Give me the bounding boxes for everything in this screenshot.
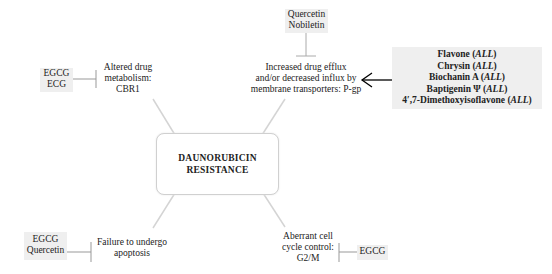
flavonoid-name: 4′,7-Dimethoxyisoflavone <box>402 95 505 105</box>
mechanism-text: cycle control: <box>276 242 340 253</box>
inhibitor-label: ECG <box>40 79 73 90</box>
mechanism-efflux: Increased drug efflux and/or decreased i… <box>236 62 376 95</box>
mechanism-text: Altered drug <box>100 62 156 73</box>
flavonoid-item: Chrysin (ALL) <box>392 61 542 73</box>
flavonoid-note: ALL <box>476 61 494 71</box>
flavonoid-name: Chrysin <box>437 61 470 71</box>
mechanism-apoptosis: Failure to undergo apoptosis <box>92 237 172 259</box>
flavonoid-item: Biochanin A (ALL) <box>392 72 542 84</box>
center-node: DAUNORUBICIN RESISTANCE <box>156 133 279 195</box>
mechanism-text: Aberrant cell <box>276 231 340 242</box>
mechanism-text: and/or decreased influx by <box>236 73 376 84</box>
inhibitor-box-metabolism: EGCG ECG <box>40 68 73 92</box>
center-title-line1: DAUNORUBICIN <box>178 153 256 163</box>
center-title-line2: RESISTANCE <box>186 165 248 175</box>
flavonoid-item: Flavone (ALL) <box>392 49 542 61</box>
mechanism-text: CBR1 <box>100 84 156 95</box>
mechanism-text: apoptosis <box>92 248 172 259</box>
inhibitor-label: EGCG <box>40 68 73 79</box>
flavonoid-item: 4′,7-Dimethoxyisoflavone (ALL) <box>392 95 542 107</box>
flavonoid-name: Baptigenin Ψ <box>427 84 481 94</box>
flavonoid-note: ALL <box>484 72 502 82</box>
flavonoid-note: ALL <box>475 49 493 59</box>
inhibitor-box-cell-cycle: EGCG <box>357 245 388 260</box>
inhibitor-box-apoptosis: EGCG Quercetin <box>24 232 67 260</box>
inhibitor-label: Quercetin <box>24 245 67 256</box>
flavonoid-box: Flavone (ALL) Chrysin (ALL) Biochanin A … <box>392 47 542 109</box>
inhibitor-label: EGCG <box>357 246 388 257</box>
inhibitor-label: EGCG <box>24 234 67 245</box>
flavonoid-name: Biochanin A <box>429 72 478 82</box>
mechanism-text: Failure to undergo <box>92 237 172 248</box>
inhibitor-label: Quercetin <box>285 9 328 20</box>
flavonoid-note: ALL <box>511 95 529 105</box>
mechanism-metabolism: Altered drug metabolism: CBR1 <box>100 62 156 95</box>
flavonoid-name: Flavone <box>438 49 470 59</box>
flavonoid-note: ALL <box>486 84 504 94</box>
inhibitor-box-efflux: Quercetin Nobiletin <box>285 9 328 33</box>
mechanism-text: G2/M <box>276 253 340 264</box>
mechanism-text: metabolism: <box>100 73 156 84</box>
mechanism-text: Increased drug efflux <box>236 62 376 73</box>
flavonoid-item: Baptigenin Ψ (ALL) <box>392 84 542 96</box>
mechanism-cell-cycle: Aberrant cell cycle control: G2/M <box>276 231 340 264</box>
mechanism-text: membrane transporters: P-gp <box>236 84 376 95</box>
inhibitor-label: Nobiletin <box>285 20 328 31</box>
